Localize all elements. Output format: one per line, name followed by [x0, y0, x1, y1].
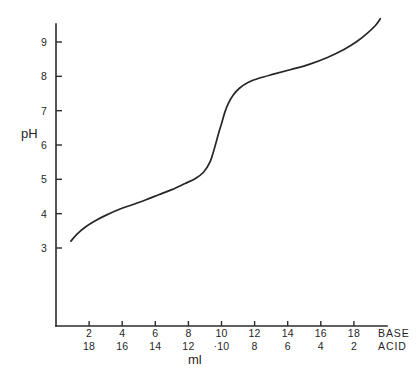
- x-tick-label-base-2: 2: [86, 327, 92, 339]
- series-line-titration-curve: [71, 19, 380, 241]
- x-tick-label-base-12: 12: [249, 327, 261, 339]
- x-tick-label-base-6: 6: [152, 327, 158, 339]
- x-tick-label-acid-1: 16: [116, 340, 128, 352]
- x-tick-label-acid-0: 18: [83, 340, 95, 352]
- x-tick-label-base-16: 16: [315, 327, 327, 339]
- x-tick-label-acid-4: ·10: [214, 340, 230, 352]
- x-tick-label-acid-6: 6: [285, 340, 291, 352]
- x-tick-label-acid-2: 14: [149, 340, 161, 352]
- x-tick-label-base-18: 18: [348, 327, 360, 339]
- y-axis-title: pH: [21, 126, 38, 141]
- acid-row-label: ACID: [378, 340, 407, 352]
- y-tick-label-9: 9: [41, 36, 47, 48]
- x-tick-label-base-14: 14: [282, 327, 294, 339]
- x-tick-label-acid-7: 4: [318, 340, 324, 352]
- x-axis-title: ml: [188, 352, 202, 367]
- x-tick-label-base-4: 4: [119, 327, 125, 339]
- x-tick-label-acid-8: 2: [351, 340, 357, 352]
- axes-group: [56, 24, 387, 326]
- y-tick-label-8: 8: [41, 70, 47, 82]
- y-tick-label-7: 7: [41, 105, 47, 117]
- x-axis-tick-labels-base: 24681012141618: [86, 327, 360, 339]
- y-axis-tick-labels: 3456789: [41, 36, 47, 254]
- x-tick-label-acid-5: 8: [252, 340, 258, 352]
- x-axis-tick-labels-acid: 18161412·108642: [83, 340, 357, 352]
- y-tick-label-6: 6: [41, 139, 47, 151]
- x-tick-label-base-8: 8: [185, 327, 191, 339]
- x-tick-label-base-10: 10: [215, 327, 227, 339]
- chart-svg: 3456789 24681012141618 18161412·108642 B…: [0, 0, 419, 372]
- y-tick-label-4: 4: [41, 208, 47, 220]
- y-tick-label-3: 3: [41, 242, 47, 254]
- y-tick-label-5: 5: [41, 173, 47, 185]
- x-tick-label-acid-3: 12: [182, 340, 194, 352]
- base-row-label: BASE: [378, 327, 410, 339]
- y-axis-ticks: [56, 42, 62, 248]
- titration-curve-chart: 3456789 24681012141618 18161412·108642 B…: [0, 0, 419, 372]
